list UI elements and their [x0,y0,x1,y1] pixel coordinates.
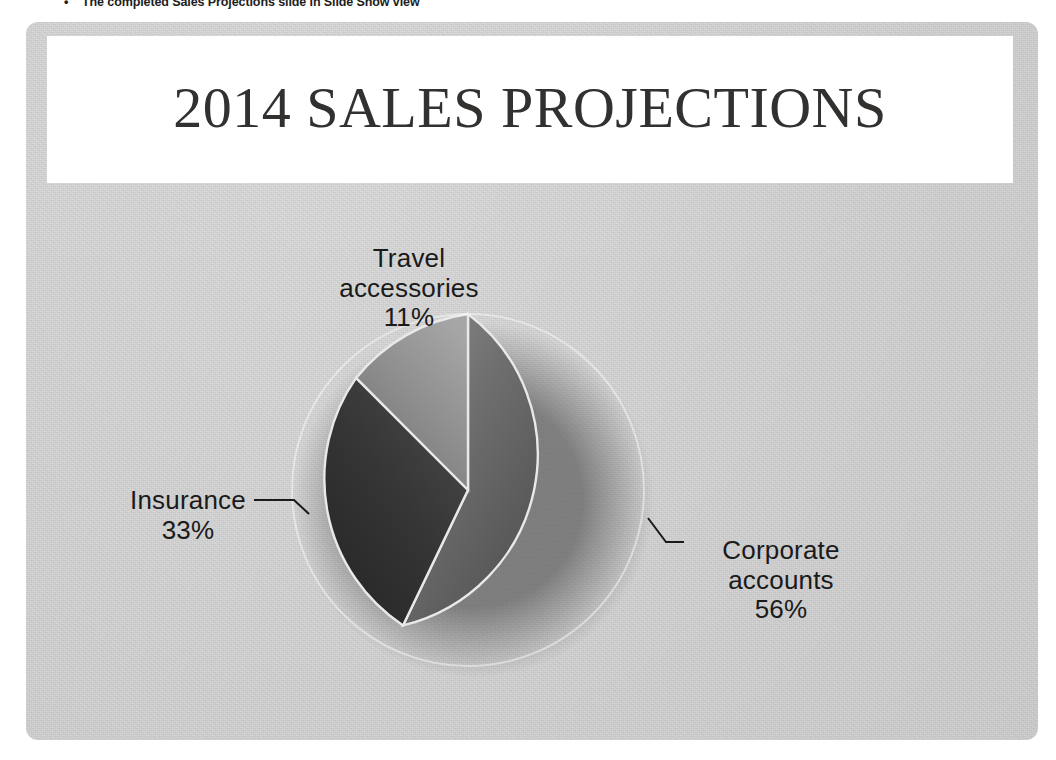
pie-chart[interactable]: Travel accessories 11% Insurance 33% Cor… [26,22,1038,740]
presentation-slide[interactable]: 2014 SALES PROJECTIONS [26,22,1038,740]
pie-chart-graphic [26,22,1038,740]
figure-caption: •The completed Sales Projections slide i… [0,0,1056,11]
pie-label-insurance: Insurance 33% [88,486,288,545]
screenshot-root: •The completed Sales Projections slide i… [0,0,1056,760]
pie-label-travel-accessories: Travel accessories 11% [294,244,524,333]
caption-bullet-icon: • [64,0,82,9]
pie-label-corporate-accounts: Corporate accounts 56% [666,536,896,625]
caption-text: The completed Sales Projections slide in… [82,0,420,9]
